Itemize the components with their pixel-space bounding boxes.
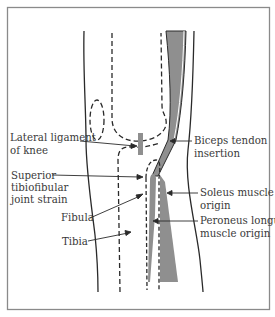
leg-outline-right <box>187 31 203 292</box>
leader-tibia <box>88 233 128 241</box>
leg-outline-left <box>84 31 98 292</box>
arrowhead-icon <box>136 194 143 199</box>
label-soleus: Soleus muscle origin <box>200 187 275 211</box>
soleus-muscle <box>160 175 178 282</box>
leader-fibula <box>90 196 140 218</box>
arrowhead-icon <box>125 231 131 236</box>
arrowhead-icon <box>137 175 143 180</box>
fibula-outline-left <box>146 178 147 290</box>
label-tibia: Tibia <box>62 236 88 247</box>
biceps-femoris-muscle <box>152 31 186 176</box>
label-biceps-tendon: Biceps tendon insertion <box>194 135 271 159</box>
arrowhead-icon <box>167 191 172 196</box>
label-peroneus: Peroneus longus muscle origin <box>200 215 275 239</box>
anatomy-diagram: Lateral ligament of knee Biceps tendon i… <box>0 0 275 317</box>
peroneus-longus-muscle <box>148 174 156 282</box>
femur-outline <box>112 33 166 141</box>
leader-superior-joint <box>52 175 140 177</box>
lateral-ligament-marker <box>138 133 143 155</box>
knee-anatomy-figure: Lateral ligament of knee Biceps tendon i… <box>0 0 275 317</box>
label-fibula: Fibula <box>61 212 94 223</box>
